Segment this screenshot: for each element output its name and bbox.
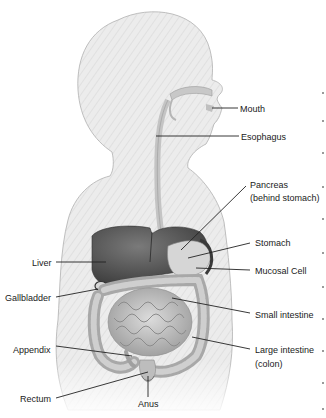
label-large-intestine-sub: (colon) (255, 359, 283, 370)
label-mucosal-cell: Mucosal Cell (255, 266, 307, 277)
label-esophagus: Esophagus (241, 132, 286, 143)
label-pancreas-sub: (behind stomach) (250, 193, 320, 204)
label-anus: Anus (138, 399, 159, 410)
label-rectum: Rectum (20, 394, 51, 405)
label-large-intestine: Large intestine (255, 345, 314, 356)
label-pancreas: Pancreas (250, 180, 288, 191)
label-stomach: Stomach (255, 238, 291, 249)
label-liver: Liver (32, 258, 52, 269)
label-small-intestine: Small intestine (255, 310, 314, 321)
body-silhouette (0, 12, 326, 418)
small-intestine-organ (108, 288, 192, 356)
digestive-system-diagram: MouthEsophagusPancreas(behind stomach)St… (0, 0, 326, 418)
label-appendix: Appendix (13, 345, 51, 356)
label-gallbladder: Gallbladder (5, 293, 51, 304)
label-mouth: Mouth (240, 104, 265, 115)
